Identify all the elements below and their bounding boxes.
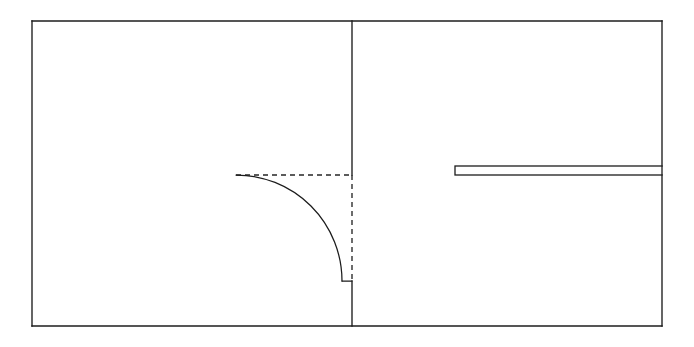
technical-line-drawing <box>0 0 694 347</box>
drawing-canvas: Architectural Plan Detail Two-dimensiona… <box>0 0 694 347</box>
thin-panel-group <box>455 166 662 175</box>
door-assembly-group <box>236 175 352 281</box>
door-swing-arc <box>236 175 342 281</box>
thin-panel-outline <box>455 166 662 175</box>
